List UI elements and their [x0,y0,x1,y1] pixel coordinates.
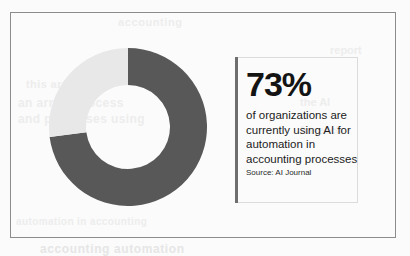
stat-panel: 73% of organizations are currently using… [238,57,358,203]
stat-description-line: automation in [246,137,354,152]
ghost-text-fragment: accounting automation [40,242,185,256]
donut-slices [49,48,207,206]
stat-description-line: of organizations are [246,108,354,123]
stat-big-number: 73% [246,64,354,104]
stat-description-line: currently using AI for [246,123,354,138]
panel-accent-bar [235,57,238,203]
donut-slice-not-using-ai [49,48,128,137]
donut-chart [49,48,207,206]
stat-source-label: Source: AI Journal [246,167,354,178]
stat-description-line: accounting processes [246,152,354,167]
donut-chart-svg [49,48,207,206]
stat-panel-content: 73% of organizations are currently using… [246,64,354,178]
